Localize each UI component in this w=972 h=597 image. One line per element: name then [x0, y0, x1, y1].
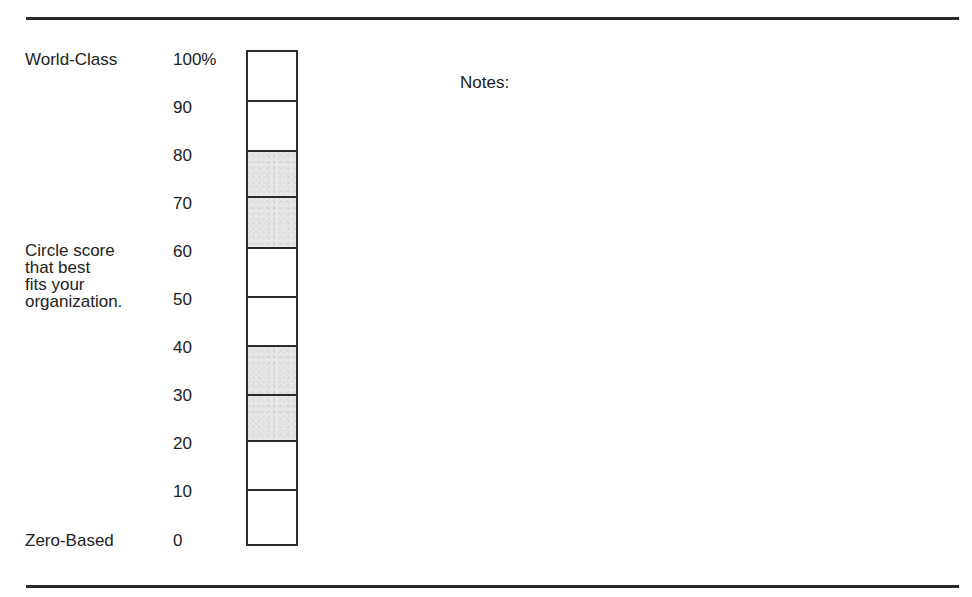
- score-cell-80-90[interactable]: [248, 101, 296, 151]
- score-scale-column: [246, 50, 298, 546]
- notes-label: Notes:: [460, 74, 509, 91]
- score-cell-10-20[interactable]: [248, 441, 296, 490]
- instruction-line: that best: [25, 259, 122, 276]
- scale-tick-label: 60: [173, 243, 192, 260]
- score-cell-60-70[interactable]: [248, 197, 296, 248]
- scale-tick-label: 70: [173, 195, 192, 212]
- scale-tick-label: 10: [173, 483, 192, 500]
- scale-tick-label: 0: [173, 532, 182, 549]
- scale-tick-label: 20: [173, 435, 192, 452]
- zero-based-label: Zero-Based: [25, 532, 114, 549]
- cell-divider: [248, 247, 296, 249]
- scale-tick-label: 80: [173, 147, 192, 164]
- score-cell-0-10[interactable]: [248, 490, 296, 544]
- score-cell-30-40[interactable]: [248, 346, 296, 395]
- world-class-label: World-Class: [25, 51, 117, 68]
- scale-tick-label: 100%: [173, 51, 216, 68]
- score-cell-70-80[interactable]: [248, 151, 296, 197]
- score-cell-90-100[interactable]: [248, 52, 296, 101]
- cell-divider: [248, 296, 296, 298]
- scale-tick-label: 90: [173, 99, 192, 116]
- cell-divider: [248, 489, 296, 491]
- scale-tick-label: 40: [173, 339, 192, 356]
- instruction-label: Circle score that best fits your organiz…: [25, 242, 122, 310]
- instruction-line: Circle score: [25, 242, 122, 259]
- cell-divider: [248, 394, 296, 396]
- instruction-line: fits your: [25, 276, 122, 293]
- score-cell-20-30[interactable]: [248, 395, 296, 441]
- cell-divider: [248, 150, 296, 152]
- cell-divider: [248, 100, 296, 102]
- cell-divider: [248, 345, 296, 347]
- instruction-line: organization.: [25, 293, 122, 310]
- scale-tick-label: 30: [173, 387, 192, 404]
- bottom-rule: [26, 585, 959, 588]
- score-cell-50-60[interactable]: [248, 248, 296, 297]
- top-rule: [26, 17, 959, 20]
- cell-divider: [248, 196, 296, 198]
- cell-divider: [248, 440, 296, 442]
- scale-tick-label: 50: [173, 291, 192, 308]
- score-cell-40-50[interactable]: [248, 297, 296, 346]
